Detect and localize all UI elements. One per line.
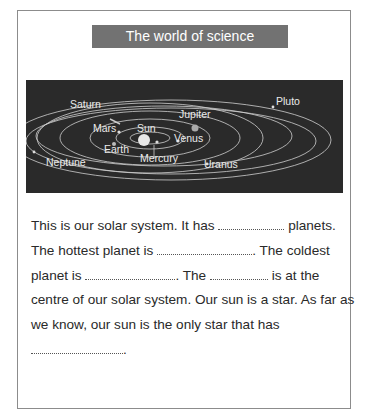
passage-line-4: centre of our solar system. Our sun is a… [31, 288, 347, 313]
label-uranus: Uranus [204, 159, 238, 170]
label-saturn: Saturn [70, 99, 101, 110]
passage-text: planets. [284, 218, 335, 233]
passage-text: The hottest planet is [31, 243, 157, 258]
label-mercury: Mercury [140, 153, 178, 164]
passage-line-6: . [31, 338, 347, 363]
label-jupiter: Jupiter [179, 109, 211, 120]
passage-line-1: This is our solar system. It has planets… [31, 214, 347, 239]
blank-star-feature[interactable] [31, 341, 123, 354]
label-mars: Mars [93, 123, 116, 134]
solar-system-diagram: Saturn Jupiter Pluto Mars Sun Venus Eart… [26, 80, 343, 193]
passage-line-2: The hottest planet is . The coldest [31, 239, 347, 264]
passage-text: . The coldest [252, 243, 330, 258]
passage-text: . The [175, 268, 210, 283]
passage-line-5: we know, our sun is the only star that h… [31, 313, 347, 338]
passage-text: planet is [31, 268, 85, 283]
passage-text: This is our solar system. It has [31, 218, 218, 233]
blank-hottest-planet[interactable] [157, 242, 252, 255]
blank-coldest-planet[interactable] [85, 267, 175, 280]
blank-centre-object[interactable] [210, 267, 268, 280]
label-pluto: Pluto [276, 96, 300, 107]
page-title: The world of science [92, 25, 288, 48]
label-neptune: Neptune [46, 157, 86, 168]
label-sun: Sun [137, 123, 156, 134]
fill-in-passage: This is our solar system. It has planets… [31, 214, 347, 363]
label-venus: Venus [174, 133, 203, 144]
passage-text: . [123, 342, 127, 357]
label-earth: Earth [104, 144, 129, 155]
passage-text: is at the [268, 268, 319, 283]
passage-line-3: planet is . The is at the [31, 264, 347, 289]
blank-planet-count[interactable] [218, 217, 284, 230]
